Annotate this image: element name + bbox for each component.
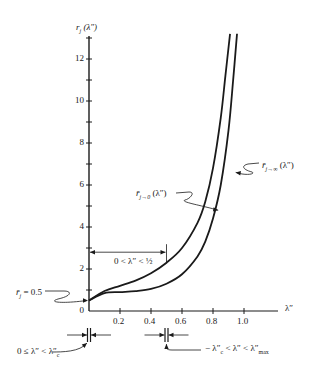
range-annotation: 0 < λ″ < ½ <box>114 256 153 266</box>
y-tick-label: 4 <box>80 221 85 231</box>
axes <box>86 36 278 314</box>
y-tick-label: 12 <box>75 53 84 63</box>
arrowhead-icon <box>236 171 241 175</box>
curve-jinf-label: r̄j→∞ (λ″) <box>262 160 294 172</box>
curve-j0-leader <box>176 192 218 210</box>
y-tick-label: 10 <box>75 95 84 105</box>
arrowhead-icon <box>91 333 96 337</box>
y-tick-label: 2 <box>80 263 85 273</box>
curve-j0-label: r̄j→0 (λ″) <box>136 188 167 200</box>
arrowhead-icon <box>164 344 168 349</box>
rbar-annotation: r̄j = 0.5 <box>16 287 42 299</box>
x-tick-label: 1.0 <box>237 316 248 326</box>
rbar-leader <box>45 291 87 302</box>
y-axis-label: rj (λ″) <box>76 22 97 34</box>
x-tick-label: 0.6 <box>175 316 186 326</box>
arrowhead-icon <box>161 250 166 254</box>
bottom-right-leader <box>166 344 201 350</box>
x-tick-label: 0.8 <box>206 316 217 326</box>
bottom-left-annotation: 0 ≤ λ″ < λ″c <box>17 346 59 358</box>
bottom-right-annotation: − λ″c < λ″ < λ″max <box>205 343 269 355</box>
x-axis-label: λ″ <box>285 303 293 313</box>
arrowhead-icon <box>82 333 87 337</box>
arrowhead-icon <box>169 333 174 337</box>
y-tick-label: 8 <box>80 137 85 147</box>
curve-j-to-inf <box>89 34 237 301</box>
curve-j-to-0 <box>89 34 230 301</box>
arrowhead-icon <box>90 250 95 254</box>
arrowhead-icon <box>83 298 88 302</box>
x-tick-label: 0.4 <box>144 316 155 326</box>
arrowhead-icon <box>160 333 165 337</box>
y-tick-label: 6 <box>80 179 85 189</box>
x-tick-label: 0.2 <box>113 316 124 326</box>
y-tick-label: 0 <box>80 305 85 315</box>
series-lines <box>89 34 237 301</box>
